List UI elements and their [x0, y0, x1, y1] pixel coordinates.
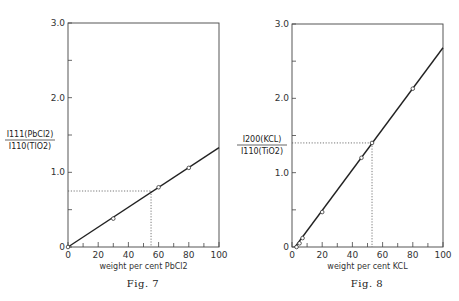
data-point — [187, 166, 191, 170]
x-tick-label: 40 — [123, 250, 135, 260]
fit-line — [295, 48, 443, 247]
y-label-numerator: I200(KCL) — [243, 135, 282, 144]
x-tick-label: 20 — [316, 250, 328, 260]
y-tick-label: 1.0 — [275, 168, 290, 178]
x-axis-title: weight per cent KCL — [327, 262, 408, 271]
data-point — [66, 245, 70, 249]
plot-frame — [68, 23, 219, 247]
plot-frame — [292, 24, 443, 247]
figure-caption: Fig. 7 — [127, 278, 159, 289]
y-label-denominator: I110(TiO2) — [241, 147, 283, 156]
x-tick-label: 0 — [289, 250, 295, 260]
y-label-denominator: I110(TlO2) — [9, 142, 51, 151]
figure-caption: Fig. 8 — [351, 278, 383, 289]
y-tick-label: 0 — [59, 242, 65, 252]
x-tick-label: 60 — [153, 250, 165, 260]
data-point — [320, 210, 324, 214]
chart-8: 02040608010001.02.03.0I200(KCL)I110(TiO2… — [237, 19, 452, 289]
y-tick-label: 1.0 — [51, 167, 66, 177]
x-tick-label: 100 — [434, 250, 451, 260]
x-tick-label: 0 — [65, 250, 71, 260]
data-point — [112, 217, 116, 221]
y-tick-label: 2.0 — [275, 93, 290, 103]
y-label-numerator: I111(PbCl2) — [7, 130, 54, 139]
x-tick-label: 60 — [377, 250, 389, 260]
data-point — [298, 241, 302, 245]
x-tick-label: 100 — [210, 250, 227, 260]
x-axis-title: weight per cent PbCl2 — [99, 262, 187, 271]
y-tick-label: 3.0 — [275, 19, 290, 29]
data-point — [295, 245, 299, 249]
figure-canvas: 02040608010001.02.03.0I111(PbCl2)I110(Tl… — [0, 0, 459, 301]
data-point — [360, 156, 364, 160]
x-tick-label: 80 — [183, 250, 195, 260]
data-point — [370, 141, 374, 145]
y-tick-label: 0 — [283, 242, 289, 252]
data-point — [301, 236, 305, 240]
data-point — [157, 185, 161, 189]
fit-line — [68, 148, 219, 247]
x-tick-label: 40 — [347, 250, 359, 260]
y-tick-label: 3.0 — [51, 18, 66, 28]
y-tick-label: 2.0 — [51, 93, 66, 103]
data-point — [411, 87, 415, 91]
x-tick-label: 80 — [407, 250, 419, 260]
chart-7: 02040608010001.02.03.0I111(PbCl2)I110(Tl… — [5, 18, 228, 289]
x-tick-label: 20 — [92, 250, 104, 260]
